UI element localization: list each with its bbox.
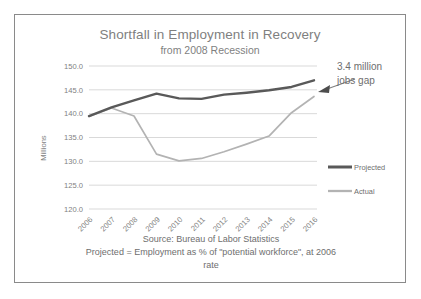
chart-footer: Source: Bureau of Labor Statistics Proje… [23,233,399,272]
legend-label-actual: Actual [354,187,375,196]
x-axis-ticks: 2006200720082009201020112012201320142015… [76,215,319,233]
series-line-projected [89,80,314,116]
x-tick-label: 2008 [121,215,139,233]
annotation-arrowhead-icon [318,85,330,93]
legend-label-projected: Projected [354,163,385,172]
y-tick-label: 150.0 [64,62,83,71]
x-tick-label: 2009 [144,215,162,233]
x-tick-label: 2006 [76,215,94,233]
series-line-actual [89,97,314,161]
y-tick-label: 135.0 [64,133,83,142]
x-tick-label: 2007 [99,215,117,233]
footer-line-source: Source: Bureau of Labor Statistics [23,233,399,246]
footer-line-rate: rate [23,259,399,272]
x-tick-label: 2013 [234,215,252,233]
series-lines [89,80,314,161]
y-tick-label: 130.0 [64,157,83,166]
annotation-line-1: 3.4 million [337,61,382,72]
annotation-jobs-gap: 3.4 million jobs gap [318,61,382,93]
annotation-line-2: jobs gap [336,75,375,86]
footer-line-definition: Projected = Employment as % of "potentia… [23,246,399,259]
y-tick-label: 125.0 [64,181,83,190]
x-tick-label: 2010 [166,215,184,233]
chart-legend: ProjectedActual [328,163,385,196]
chart-card: Shortfall in Employment in Recovery from… [14,14,406,283]
x-tick-label: 2014 [256,215,274,233]
y-axis-ticks: 150.0145.0140.0135.0130.0125.0120.0 [64,62,83,214]
y-tick-label: 140.0 [64,109,83,118]
x-tick-label: 2016 [301,215,319,233]
x-tick-label: 2011 [189,215,207,233]
y-tick-label: 120.0 [64,205,83,214]
y-axis-title: Millions [39,135,48,161]
x-tick-label: 2012 [211,215,229,233]
y-tick-label: 145.0 [64,86,83,95]
x-tick-label: 2015 [279,215,297,233]
